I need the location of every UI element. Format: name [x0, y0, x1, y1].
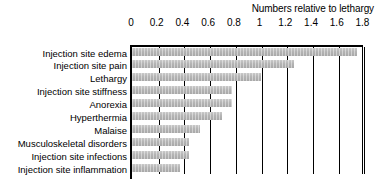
y-axis-label: Malaise [0, 126, 127, 136]
bar [132, 60, 294, 68]
bar [132, 151, 189, 159]
y-axis-label: Musculoskeletal disorders [0, 139, 127, 149]
y-axis-label: Injection site stiffness [0, 87, 127, 97]
x-tick-label: 1.2 [278, 17, 292, 28]
bar [132, 138, 189, 146]
x-tick-label: 0 [128, 17, 134, 28]
bar [132, 99, 232, 107]
axis-bottom-tick [130, 174, 132, 179]
bar [132, 86, 232, 94]
y-axis-category-labels: Injection site edemaInjection site painL… [0, 45, 127, 174]
x-tick-label: 0.6 [201, 17, 215, 28]
bar [132, 48, 357, 56]
y-axis-label: Injection site edema [0, 49, 127, 59]
bar [132, 112, 222, 120]
x-tick-label: 1.8 [356, 17, 370, 28]
y-axis-label: Anorexia [0, 100, 127, 110]
x-tick-label: 0.8 [227, 17, 241, 28]
bar [132, 125, 200, 133]
x-axis-tick-labels: 00.20.40.60.811.21.41.61.8 [0, 17, 380, 31]
x-tick-label: 0.4 [175, 17, 189, 28]
x-tick-label: 0.2 [150, 17, 164, 28]
y-axis-label: Injection site infections [0, 152, 127, 162]
x-tick-label: 1 [257, 17, 263, 28]
y-axis-label: Lethargy [0, 74, 127, 84]
y-axis-label: Injection site pain [0, 61, 127, 71]
gridline [364, 47, 365, 174]
x-tick-label: 1.6 [330, 17, 344, 28]
bar [132, 73, 261, 81]
bar-chart: Numbers relative to lethargy 00.20.40.60… [0, 0, 380, 190]
bar [132, 164, 180, 172]
bars-layer [132, 45, 363, 174]
x-tick-label: 1.4 [304, 17, 318, 28]
y-axis-label: Hyperthermia [0, 113, 127, 123]
chart-title: Numbers relative to lethargy [0, 3, 374, 14]
y-axis-label: Injection site inflammation [0, 165, 127, 175]
